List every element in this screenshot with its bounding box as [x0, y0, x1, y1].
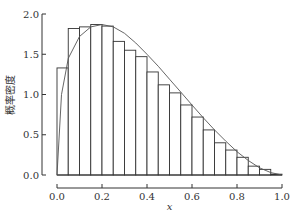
- histogram-bar: [237, 157, 248, 175]
- histogram-bar: [91, 24, 102, 175]
- x-tick-label: 1.0: [274, 191, 290, 202]
- histogram-bar: [226, 150, 237, 175]
- histogram-bar: [136, 57, 147, 175]
- histogram-bar: [113, 41, 124, 175]
- x-tick-label: 0.4: [139, 191, 155, 202]
- histogram-bar: [215, 143, 226, 175]
- y-tick-label: 0.0: [23, 170, 39, 181]
- histogram-bars: [57, 24, 282, 175]
- histogram-bar: [80, 27, 91, 175]
- x-tick-label: 0.0: [49, 191, 65, 202]
- histogram-bar: [158, 85, 169, 175]
- histogram-bar: [170, 93, 181, 175]
- histogram-bar: [203, 130, 214, 175]
- y-tick-label: 0.5: [23, 129, 39, 140]
- histogram-chart: 0.00.51.01.52.0 0.00.20.40.60.81.0 概率密度 …: [0, 0, 296, 219]
- histogram-bar: [181, 105, 192, 175]
- histogram-bar: [102, 26, 113, 175]
- y-axis: 0.00.51.01.52.0: [23, 9, 46, 181]
- histogram-bar: [248, 166, 259, 175]
- x-tick-label: 0.2: [94, 191, 110, 202]
- y-tick-label: 2.0: [23, 9, 39, 20]
- histogram-bar: [57, 68, 68, 175]
- histogram-bar: [147, 72, 158, 175]
- histogram-bar: [125, 50, 136, 175]
- histogram-bar: [68, 28, 79, 175]
- histogram-bar: [192, 117, 203, 175]
- y-tick-label: 1.0: [23, 89, 39, 100]
- y-axis-label: 概率密度: [4, 75, 16, 115]
- x-axis: 0.00.20.40.60.81.0: [49, 184, 290, 202]
- x-tick-label: 0.8: [229, 191, 245, 202]
- x-axis-label: x: [167, 201, 173, 212]
- x-tick-label: 0.6: [184, 191, 200, 202]
- y-tick-label: 1.5: [23, 49, 39, 60]
